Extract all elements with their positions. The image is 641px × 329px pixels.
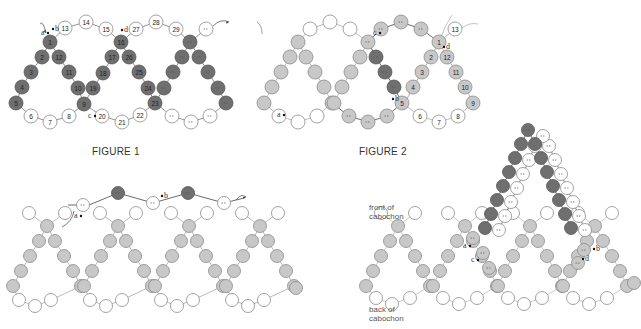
bead-number: 1 (437, 39, 441, 46)
bead (112, 220, 125, 233)
bead (15, 265, 28, 278)
point-dot (283, 114, 285, 116)
point-label-b: b (55, 24, 59, 33)
point-label-a: a (463, 241, 467, 250)
beading-diagram: 1234567891011121314151617181920212223242… (0, 0, 641, 329)
bead-18: 18 (96, 66, 110, 80)
bead (84, 294, 97, 307)
bead-number: 23 (151, 100, 159, 107)
bead-25: 25 (132, 65, 146, 79)
bead (343, 22, 357, 36)
bead-number: 4 (411, 84, 415, 91)
bead-5: 5 (9, 96, 23, 110)
bead (258, 294, 271, 307)
bead (400, 235, 413, 248)
bead (317, 80, 331, 94)
bead (59, 207, 72, 220)
point-dot (392, 98, 394, 100)
figure-2: 12345678910111213abcd (257, 15, 480, 129)
bead-number: 11 (66, 69, 73, 76)
bead (392, 220, 405, 233)
bead (291, 115, 305, 129)
bead-29: 29 (169, 22, 183, 36)
bead (583, 298, 596, 311)
bead-20: 20 (95, 109, 109, 123)
bead-26: 26 (122, 50, 136, 64)
bead (628, 277, 641, 290)
bead (58, 250, 71, 263)
thread-tail (462, 24, 478, 29)
bead-number: 25 (135, 69, 143, 76)
bead-number: 6 (418, 113, 422, 120)
bead (45, 294, 58, 307)
point-dot (47, 32, 49, 34)
bead (509, 152, 522, 165)
bead (553, 194, 566, 207)
bead (29, 300, 42, 313)
bead-number: 5 (400, 100, 404, 107)
bead-12: 12 (52, 50, 66, 64)
bead (404, 292, 417, 305)
bead (220, 280, 233, 293)
bead (409, 250, 422, 263)
bead (129, 250, 142, 263)
bead-10: 10 (458, 80, 472, 94)
bead (497, 180, 510, 193)
bead (442, 250, 455, 263)
bead (518, 298, 531, 311)
bead (271, 250, 284, 263)
bead-number: 27 (132, 26, 140, 33)
bead-number: 3 (420, 69, 424, 76)
point-label-a: a (74, 211, 78, 220)
bead-2: 2 (35, 50, 49, 64)
point-dot (469, 245, 471, 247)
bead (24, 250, 37, 263)
thread-tail (257, 22, 262, 34)
point-label-d: d (446, 42, 450, 51)
bead-number: 3 (29, 69, 33, 76)
bead (492, 280, 505, 293)
bead (200, 250, 213, 263)
point-dot (582, 258, 584, 260)
bead-number: 2 (40, 54, 44, 61)
bead (86, 265, 99, 278)
bead (116, 294, 129, 307)
bead (78, 280, 91, 293)
bead (23, 207, 36, 220)
bead (409, 207, 422, 220)
point-label-c: c (373, 28, 377, 37)
bead (165, 207, 178, 220)
point-label-a: a (41, 28, 45, 37)
bead-number: 18 (99, 70, 107, 77)
bead-6: 6 (24, 109, 38, 123)
bead (323, 15, 337, 29)
bead-15: 15 (99, 22, 113, 36)
bead-number: 9 (82, 101, 86, 108)
bead-7: 7 (43, 115, 57, 129)
bead (327, 96, 341, 110)
bead (138, 265, 151, 278)
bead-number: 11 (453, 69, 460, 76)
point-label-d: d (124, 25, 128, 34)
bead (547, 180, 560, 193)
bead (417, 265, 430, 278)
figure-2-caption: FIGURE 2 (359, 146, 407, 157)
bead (201, 207, 214, 220)
bead (265, 80, 279, 94)
bead (94, 207, 107, 220)
bead-number: 10 (461, 84, 469, 91)
figure-1: 1234567891011121314151617181920212223242… (9, 15, 233, 129)
point-label-b: b (164, 191, 168, 200)
bead (536, 292, 549, 305)
bead (549, 265, 562, 278)
point-label-c: c (88, 111, 92, 120)
bead (442, 207, 455, 220)
bead (67, 265, 80, 278)
front-of-cabochon-label: front of cabochon (369, 203, 409, 221)
bead (308, 65, 322, 79)
bead-number: 8 (456, 113, 460, 120)
bead (491, 194, 504, 207)
bead (157, 265, 170, 278)
bead-number: 29 (172, 26, 180, 33)
bead (367, 265, 380, 278)
